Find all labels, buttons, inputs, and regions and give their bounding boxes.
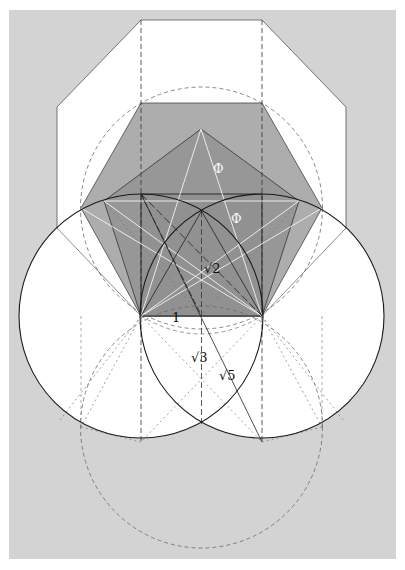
label-phi-1: Φ xyxy=(213,161,224,176)
label-sqrt2: √2 xyxy=(204,261,221,276)
label-sqrt5: √5 xyxy=(219,368,236,383)
label-phi-2: Φ xyxy=(231,211,242,226)
label-one: 1 xyxy=(172,310,180,325)
geometry-diagram: Φ Φ √2 1 √3 √5 xyxy=(0,0,405,570)
label-sqrt3: √3 xyxy=(191,350,208,365)
